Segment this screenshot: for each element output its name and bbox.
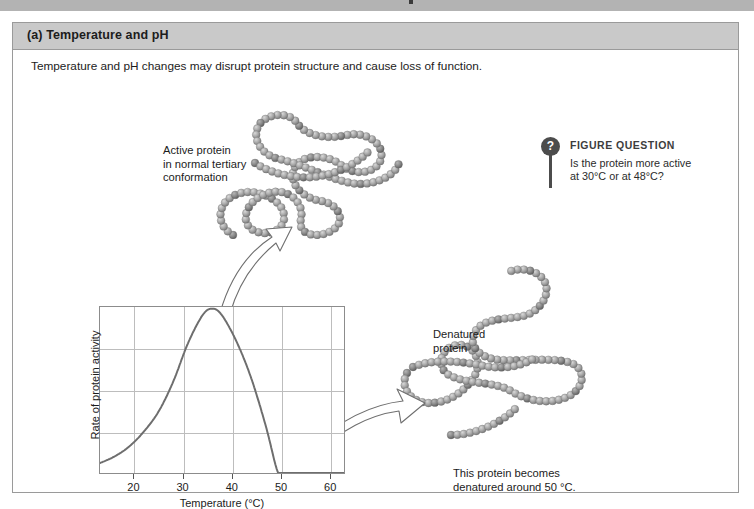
denaturation-caption-line2: denatured around 50 °C. — [453, 481, 576, 495]
chart-x-tick-label: 50 — [266, 481, 296, 493]
chart-x-tick-label: 20 — [118, 481, 148, 493]
chart-x-tick — [183, 474, 184, 479]
chart-x-tick-label: 30 — [168, 481, 198, 493]
chart-x-tick — [281, 474, 282, 479]
figure-panel: (a) Temperature and pH Temperature and p… — [12, 22, 739, 493]
protein-bead — [364, 149, 372, 157]
question-mark-glyph: ? — [541, 137, 560, 156]
panel-title: (a) Temperature and pH — [27, 28, 169, 42]
protein-bead — [395, 160, 403, 168]
figure-question-line1: Is the protein more active — [570, 157, 691, 170]
protein-activity-chart: 2030405060 Temperature (°C) Rate of prot… — [65, 299, 355, 504]
figure-question-pin-tail — [549, 155, 552, 188]
active-protein-label: Active protein in normal tertiary confor… — [163, 144, 246, 185]
denatured-protein-label: Denatured protein — [433, 328, 485, 355]
figure-question-body: Is the protein more active at 30°C or at… — [570, 157, 691, 183]
chart-x-tick-label: 60 — [315, 481, 345, 493]
denaturation-caption: This protein becomes denatured around 50… — [453, 467, 576, 494]
cropped-glyph — [409, 0, 413, 4]
figure-question-title: FIGURE QUESTION — [570, 139, 675, 151]
page-top-band — [0, 0, 754, 11]
chart-x-tick-label: 40 — [217, 481, 247, 493]
chart-plot-area — [99, 306, 345, 474]
protein-bead — [511, 405, 519, 413]
chart-y-axis-label: Rate of protein activity — [89, 300, 101, 470]
denaturation-caption-line1: This protein becomes — [453, 467, 576, 481]
panel-header: (a) Temperature and pH — [13, 23, 738, 50]
active-protein-label-line1: Active protein — [163, 144, 246, 158]
activity-curve — [100, 307, 344, 473]
panel-subtitle: Temperature and pH changes may disrupt p… — [31, 59, 482, 73]
denatured-protein-label-line2: protein — [433, 342, 485, 356]
protein-bead — [528, 356, 536, 364]
chart-x-tick — [133, 474, 134, 479]
question-mark-icon: ? — [541, 137, 560, 156]
active-protein-label-line2: in normal tertiary — [163, 158, 246, 172]
figure-question-callout: ? FIGURE QUESTION Is the protein more ac… — [541, 137, 721, 199]
chart-x-tick — [330, 474, 331, 479]
figure-question-line2: at 30°C or at 48°C? — [570, 170, 691, 183]
denatured-protein-label-line1: Denatured — [433, 328, 485, 342]
chart-x-tick — [232, 474, 233, 479]
active-protein-label-line3: conformation — [163, 171, 246, 185]
protein-bead — [507, 267, 515, 275]
chart-x-axis-label: Temperature (°C) — [99, 497, 345, 509]
